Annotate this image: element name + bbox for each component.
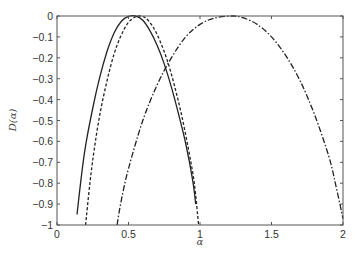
y-tick-label: −0.1 — [32, 31, 53, 43]
x-tick-label: 2 — [340, 228, 346, 240]
y-tick-label: −0.7 — [32, 156, 53, 168]
y-tick-label: −0.2 — [32, 52, 53, 64]
y-tick-label: −0.9 — [32, 198, 53, 210]
x-tick-label: 0 — [54, 228, 60, 240]
y-tick-label: −1 — [41, 219, 53, 231]
y-tick-label: −0.4 — [32, 94, 53, 106]
plot-area-frame — [57, 16, 343, 225]
y-tick-label: 0 — [47, 10, 53, 22]
series-dash-dot — [117, 16, 343, 225]
x-tick-label: 0.5 — [121, 228, 136, 240]
y-tick-label: −0.6 — [32, 135, 53, 147]
x-tick-label: 1.5 — [264, 228, 279, 240]
y-tick-label: −0.8 — [32, 177, 53, 189]
x-axis-label: α — [197, 236, 204, 247]
y-tick-label: −0.3 — [32, 73, 53, 85]
chart: 00.511.52 0−0.1−0.2−0.3−0.4−0.5−0.6−0.7−… — [0, 0, 364, 262]
y-tick-label: −0.5 — [32, 115, 53, 127]
series-dashed — [86, 16, 199, 225]
plot-series-group — [77, 16, 343, 225]
y-axis-label: D(α) — [7, 109, 18, 133]
series-solid — [77, 16, 196, 215]
